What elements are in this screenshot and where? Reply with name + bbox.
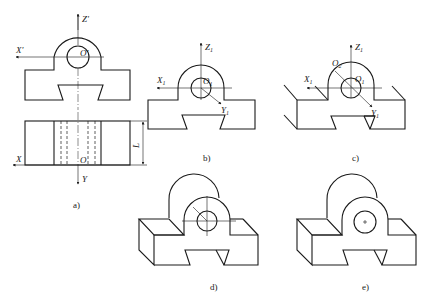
origin-label-o2: O2	[332, 58, 342, 69]
caption-b: b)	[203, 153, 211, 163]
axis-label-z-prime: Z'	[82, 14, 90, 24]
axis-label-x: X	[15, 154, 22, 164]
caption-c: c)	[352, 153, 359, 163]
axis-label-y1: Y1	[221, 105, 229, 116]
panel-a-top-view	[13, 112, 147, 184]
axis-label-z1: Z1	[205, 42, 213, 53]
origin-label-o-prime: O'	[80, 48, 89, 58]
panel-d-oblique-construction	[139, 174, 258, 265]
origin-label-o1: O1	[203, 76, 213, 87]
panel-c-oblique-setup	[284, 45, 405, 129]
caption-a: a)	[73, 200, 80, 210]
panel-e-finished-oblique	[297, 174, 416, 265]
axis-label-x-prime: X'	[15, 45, 24, 55]
technical-drawing: Z' X' O' X O Y L a) Z1 X1 O1 Y1 b)	[0, 0, 429, 306]
dimension-label-l: L	[131, 143, 141, 149]
panel-a-front-view	[16, 14, 130, 110]
origin-label-o: O	[80, 155, 87, 165]
axis-label-x1-c: X1	[303, 74, 313, 85]
caption-d: d)	[210, 282, 218, 292]
axis-label-y1-c: Y1	[371, 108, 379, 119]
caption-e: e)	[362, 282, 369, 292]
origin-label-o1-c: O1	[355, 74, 365, 85]
axis-label-x1: X1	[156, 75, 166, 86]
axis-label-y: Y	[82, 174, 88, 184]
panel-b-axes-setup	[148, 43, 255, 129]
axis-label-z1-c: Z1	[355, 42, 363, 53]
